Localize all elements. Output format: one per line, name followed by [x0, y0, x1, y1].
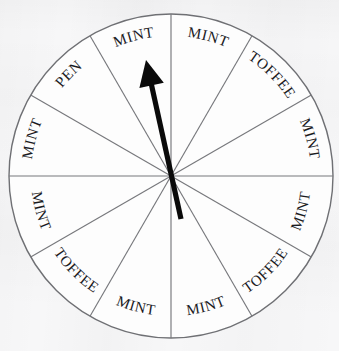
spinner-wheel[interactable]: MINTTOFFEEMINTMINTTOFFEEMINTMINTTOFFEEMI…	[0, 0, 339, 351]
spinner-page: MINTTOFFEEMINTMINTTOFFEEMINTMINTTOFFEEMI…	[0, 0, 339, 351]
